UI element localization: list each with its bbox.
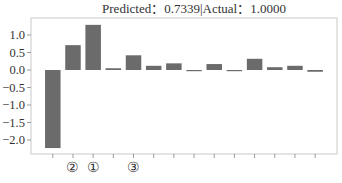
x-tick-label: ② bbox=[66, 160, 79, 175]
y-tick-label: 1.0 bbox=[9, 28, 25, 42]
y-tick-label: −1.0 bbox=[2, 98, 25, 112]
feature-contribution-chart: Predicted：0.7339|Actual：1.0000 1.00.50.0… bbox=[0, 0, 342, 183]
bar-5 bbox=[126, 55, 141, 70]
bar-2 bbox=[65, 45, 81, 70]
bar-10 bbox=[227, 70, 243, 71]
bar-9 bbox=[206, 64, 222, 70]
bars bbox=[45, 25, 323, 148]
bar-11 bbox=[247, 59, 263, 70]
bar-8 bbox=[186, 70, 202, 71]
x-tick-label: ① bbox=[87, 160, 100, 175]
x-tick-label: ③ bbox=[127, 160, 140, 175]
y-axis: 1.00.50.0−0.5−1.0−1.5−2.0 bbox=[2, 28, 31, 147]
bar-4 bbox=[106, 68, 122, 70]
bar-14 bbox=[307, 70, 323, 72]
bar-7 bbox=[166, 63, 182, 70]
y-tick-label: 0.5 bbox=[9, 46, 25, 60]
y-tick-label: −1.5 bbox=[2, 116, 25, 130]
bar-3 bbox=[85, 25, 101, 70]
x-axis: ②①③ bbox=[53, 154, 315, 175]
y-tick-label: −0.5 bbox=[2, 81, 25, 95]
bar-6 bbox=[146, 66, 162, 70]
plot-area bbox=[31, 18, 337, 154]
bar-12 bbox=[267, 67, 283, 70]
bar-1 bbox=[45, 70, 61, 148]
y-tick-label: 0.0 bbox=[9, 63, 25, 77]
chart-title: Predicted：0.7339|Actual：1.0000 bbox=[102, 1, 286, 16]
y-tick-label: −2.0 bbox=[2, 133, 25, 147]
bar-13 bbox=[287, 66, 303, 70]
